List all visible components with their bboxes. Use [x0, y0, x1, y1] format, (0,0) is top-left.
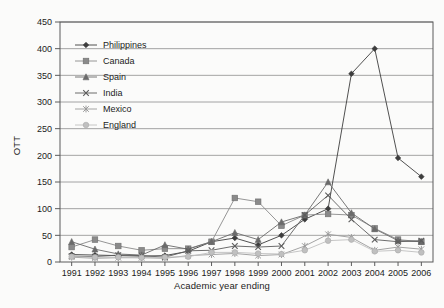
- data-point: [162, 242, 168, 248]
- data-point: [325, 238, 331, 244]
- legend-label: Philippines: [103, 40, 147, 50]
- data-point: [115, 243, 121, 249]
- data-point: [115, 254, 121, 260]
- data-point: [92, 254, 98, 260]
- chart-legend: PhilippinesCanadaSpainIndiaMexicoEngland: [75, 40, 147, 130]
- x-tick-label: 1996: [178, 268, 198, 278]
- data-point: [372, 249, 378, 255]
- x-tick-label: 2002: [318, 268, 338, 278]
- x-tick-label: 2000: [271, 268, 291, 278]
- data-point: [92, 237, 98, 243]
- data-point: [279, 233, 285, 239]
- data-point: [325, 206, 331, 212]
- chart-figure: 050100150200250300350400450 199119921993…: [0, 0, 444, 308]
- data-point: [232, 235, 238, 241]
- y-tick-label: 100: [37, 204, 52, 214]
- x-tick-label: 1994: [132, 268, 152, 278]
- legend-item-canada[interactable]: Canada: [75, 56, 135, 66]
- series-spain: [69, 179, 425, 258]
- x-axis-title: Academic year ending: [0, 280, 444, 291]
- y-tick-label: 150: [37, 177, 52, 187]
- y-tick-label: 50: [42, 231, 52, 241]
- data-point: [69, 254, 75, 260]
- x-tick-label: 1993: [108, 268, 128, 278]
- legend-label: Canada: [103, 56, 135, 66]
- x-tick-label: 2003: [341, 268, 361, 278]
- data-point: [69, 244, 75, 250]
- x-tick-label: 2005: [388, 268, 408, 278]
- y-tick-label: 400: [37, 44, 52, 54]
- x-tick-label: 1997: [202, 268, 222, 278]
- legend-marker-diamond-icon: [83, 42, 89, 48]
- data-point: [349, 237, 355, 243]
- y-tick-label: 350: [37, 71, 52, 81]
- x-tick-label: 1998: [225, 268, 245, 278]
- x-tick-label: 2001: [295, 268, 315, 278]
- data-point: [325, 211, 331, 217]
- y-tick-label: 450: [37, 17, 52, 27]
- data-point: [232, 229, 238, 235]
- data-point: [255, 199, 261, 205]
- x-axis-tick-labels: 1991199219931994199519961997199819992000…: [62, 268, 432, 278]
- line-chart: 050100150200250300350400450 199119921993…: [0, 0, 444, 308]
- data-point: [255, 251, 261, 257]
- legend-label: Mexico: [103, 104, 132, 114]
- legend-marker-square-icon: [83, 58, 89, 64]
- y-tick-label: 300: [37, 97, 52, 107]
- y-axis-title: OTT: [11, 116, 22, 176]
- y-tick-label: 0: [47, 257, 52, 267]
- series-canada: [69, 195, 424, 253]
- legend-marker-circle-icon: [83, 122, 89, 128]
- legend-item-spain[interactable]: Spain: [75, 72, 126, 82]
- x-tick-label: 1992: [85, 268, 105, 278]
- x-tick-label: 1995: [155, 268, 175, 278]
- x-tick-label: 1991: [62, 268, 82, 278]
- data-point: [232, 250, 238, 256]
- data-point: [185, 254, 191, 260]
- data-point: [419, 250, 425, 256]
- data-point: [209, 250, 215, 256]
- x-tick-label: 2004: [365, 268, 385, 278]
- data-point: [162, 254, 168, 260]
- data-point: [279, 251, 285, 257]
- data-point: [395, 247, 401, 253]
- data-point: [92, 246, 98, 252]
- data-point: [69, 239, 75, 245]
- y-tick-label: 200: [37, 151, 52, 161]
- x-tick-label: 2006: [411, 268, 431, 278]
- data-point: [232, 195, 238, 201]
- data-point: [302, 247, 308, 253]
- legend-item-mexico[interactable]: Mexico: [75, 104, 132, 114]
- x-tick-label: 1999: [248, 268, 268, 278]
- y-axis-tick-labels: 050100150200250300350400450: [37, 17, 52, 267]
- legend-label: Spain: [103, 72, 126, 82]
- y-tick-label: 250: [37, 124, 52, 134]
- legend-label: India: [103, 88, 123, 98]
- series-england: [69, 237, 424, 261]
- legend-label: England: [103, 120, 136, 130]
- legend-item-india[interactable]: India: [75, 88, 123, 98]
- data-point: [139, 255, 145, 261]
